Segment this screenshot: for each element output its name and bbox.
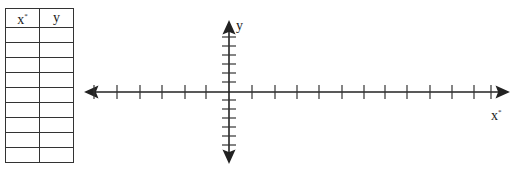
y-axis-down-arrow-icon xyxy=(224,151,234,162)
y-axis-label: y xyxy=(236,19,243,33)
x-axis-right-arrow-icon xyxy=(497,87,508,97)
x-axis-left-arrow-icon xyxy=(86,87,97,97)
coordinate-plane xyxy=(0,0,524,169)
y-axis-up-arrow-icon xyxy=(224,22,234,33)
x-axis-label: x* xyxy=(491,105,502,123)
